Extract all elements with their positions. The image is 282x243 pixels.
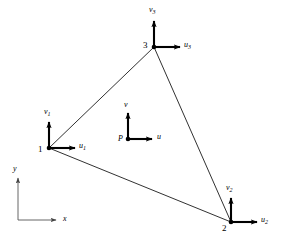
node-3-v-label: v3 bbox=[149, 6, 156, 14]
y-axis-label: y bbox=[13, 165, 17, 173]
node-1-marker bbox=[47, 146, 52, 151]
interior-point-arrows bbox=[126, 113, 152, 141]
node-1-u-subscript: 1 bbox=[83, 145, 86, 151]
triangle-element bbox=[49, 47, 231, 222]
node-2-v-label: v2 bbox=[226, 184, 233, 192]
interior-point-u-label: u bbox=[157, 133, 161, 141]
node-2-marker bbox=[229, 220, 234, 225]
edge-1-3 bbox=[49, 47, 154, 148]
point-p-marker bbox=[126, 137, 131, 142]
interior-point-v-label: v bbox=[124, 101, 128, 109]
node-3-v-subscript: 3 bbox=[153, 9, 156, 15]
node-2-u-label: u2 bbox=[261, 216, 268, 224]
node-3-marker bbox=[152, 45, 157, 50]
node-3-u-label: u3 bbox=[184, 41, 191, 49]
global-coordinate-axes bbox=[18, 178, 56, 220]
node-3-dof-arrows bbox=[152, 21, 180, 49]
node-2-label: 2 bbox=[222, 224, 227, 233]
node-1-v-label: v1 bbox=[44, 108, 51, 116]
node-3-label: 3 bbox=[143, 41, 148, 50]
node-1-u-label: u1 bbox=[79, 142, 86, 150]
node-1-v-subscript: 1 bbox=[48, 111, 51, 117]
node-2-u-subscript: 2 bbox=[265, 219, 268, 225]
node-2-dof-arrows bbox=[229, 198, 257, 224]
x-axis-label: x bbox=[63, 215, 67, 223]
node-3-u-subscript: 3 bbox=[188, 44, 191, 50]
finite-element-triangle-figure: 1 2 3 u1 v1 u2 v2 u3 v3 P u v x y bbox=[0, 0, 282, 243]
interior-point-label: P bbox=[118, 135, 123, 143]
figure-canvas bbox=[0, 0, 282, 243]
node-2-v-subscript: 2 bbox=[230, 187, 233, 193]
node-1-label: 1 bbox=[38, 145, 43, 154]
